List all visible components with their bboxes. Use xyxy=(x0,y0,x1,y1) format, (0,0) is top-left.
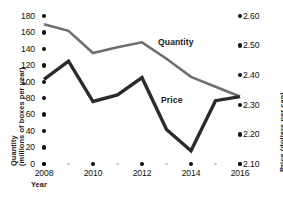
plot-area xyxy=(0,0,283,200)
chart-container: Quantity (millions of boxes per year) Pr… xyxy=(0,0,283,200)
series-line-price xyxy=(44,61,240,151)
series-label-price: Price xyxy=(161,95,183,105)
series-line-quantity xyxy=(44,24,240,96)
series-label-quantity: Quantity xyxy=(158,37,194,47)
